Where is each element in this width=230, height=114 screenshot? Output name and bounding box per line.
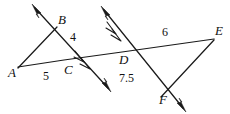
point-label-D: D	[119, 53, 128, 66]
point-label-E: E	[215, 24, 223, 37]
figure-canvas	[0, 0, 230, 114]
point-label-A: A	[8, 66, 16, 79]
arrow-down-right-ray1	[102, 78, 111, 92]
segment-E-to-F	[161, 40, 214, 97]
line-A-to-E	[18, 39, 214, 67]
measure-label-DE: 6	[162, 26, 168, 38]
measure-label-BC: 4	[70, 31, 76, 43]
measure-label-DF: 7.5	[119, 72, 134, 84]
arrow-up-left-ray2	[101, 6, 110, 20]
point-label-C: C	[64, 63, 73, 76]
parallel-tick-ray2-b	[111, 29, 121, 41]
point-label-B: B	[58, 13, 66, 26]
point-label-F: F	[159, 93, 167, 106]
geometry-figure: A B C D E F 5 4 6 7.5	[0, 0, 230, 114]
measure-label-AC: 5	[43, 70, 49, 82]
arrow-up-left-ray1	[32, 4, 41, 18]
ray-through-D	[104, 10, 183, 108]
arrow-down-right-ray2	[177, 98, 186, 112]
